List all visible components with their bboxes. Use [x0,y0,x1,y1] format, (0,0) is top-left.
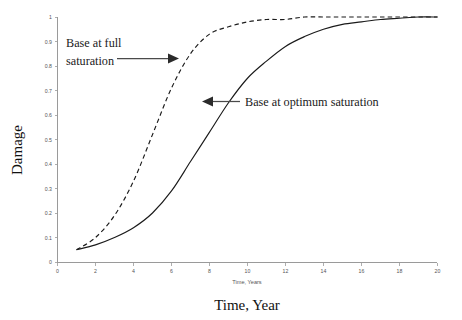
x-tick-label: 20 [435,268,441,274]
y-tick-label: 0 [49,259,52,265]
x-tick-label: 10 [245,268,251,274]
y-tick-label: 0.7 [45,88,52,94]
y-tick-label: 0.9 [45,39,52,45]
x-tick-label: 4 [132,268,135,274]
y-tick-label: 0.2 [45,210,52,216]
x-tick-label: 2 [94,268,97,274]
y-axis-title: Damage [9,125,25,175]
annotation-optimum-saturation-label: Base at optimum saturation [245,95,379,109]
y-tick-label: 0.5 [45,137,52,143]
x-axis-title: Time, Year [214,297,280,313]
x-axis-inner-title: Time, Years [232,279,262,285]
y-tick-label: 1 [49,14,52,20]
x-tick-label: 6 [170,268,173,274]
y-tick-label: 0.1 [45,235,52,241]
chart-figure: 1 0.9 0.8 0.7 0.6 0.5 0.4 0.3 0.2 0.1 0 [0,0,462,320]
damage-vs-time-chart: 1 0.9 0.8 0.7 0.6 0.5 0.4 0.3 0.2 0.1 0 [0,0,462,320]
y-tick-label: 0.6 [45,112,52,118]
x-tick-label: 16 [359,268,365,274]
y-tick-label: 0.4 [45,161,52,167]
x-tick-label: 18 [397,268,403,274]
annotation-full-saturation-line2: saturation [66,54,114,68]
y-tick-label: 0.8 [45,63,52,69]
x-tick-label: 8 [208,268,211,274]
x-tick-label: 0 [56,268,59,274]
annotation-full-saturation-line1: Base at full [66,36,122,50]
x-tick-label: 12 [283,268,289,274]
x-tick-label: 14 [321,268,327,274]
y-tick-label: 0.3 [45,186,52,192]
